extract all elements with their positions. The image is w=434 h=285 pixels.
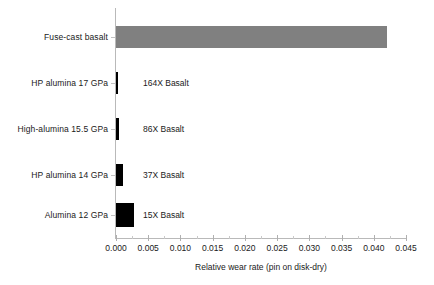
x-axis-minor-tick: [390, 236, 391, 239]
x-axis-tick: [277, 235, 278, 241]
x-axis-tick-label: 0.000: [105, 243, 126, 253]
chart-row: High-alumina 15.5 GPa 86X Basalt: [0, 106, 434, 152]
bar: [116, 164, 123, 186]
x-axis-tick-label: 0.035: [331, 243, 352, 253]
x-axis-minor-tick: [132, 236, 133, 239]
category-label: HP alumina 14 GPa: [31, 170, 108, 180]
x-axis-tick: [342, 235, 343, 241]
x-axis-minor-tick: [358, 236, 359, 239]
bar-annotation: 164X Basalt: [143, 78, 189, 88]
chart-row: Alumina 12 GPa 15X Basalt: [0, 192, 434, 238]
x-axis-tick-label: 0.040: [363, 243, 384, 253]
x-axis-minor-tick: [293, 236, 294, 239]
category-label: High-alumina 15.5 GPa: [18, 124, 108, 134]
x-axis-tick: [148, 235, 149, 241]
bar: [116, 26, 387, 48]
x-axis-tick-label: 0.020: [234, 243, 255, 253]
y-axis-tick: [111, 129, 115, 130]
bar: [116, 118, 119, 140]
bar: [116, 72, 118, 94]
category-label: Alumina 12 GPa: [45, 210, 108, 220]
category-label: Fuse-cast basalt: [44, 32, 108, 42]
x-axis-minor-tick: [229, 236, 230, 239]
x-axis-tick-label: 0.005: [138, 243, 159, 253]
x-axis-tick: [374, 235, 375, 241]
bar-chart: Fuse-cast basalt HP alumina 17 GPa 164X …: [0, 0, 434, 285]
x-axis-tick-label: 0.030: [299, 243, 320, 253]
x-axis-tick-label: 0.010: [170, 243, 191, 253]
x-axis-tick: [213, 235, 214, 241]
y-axis-tick: [111, 215, 115, 216]
bar-annotation: 86X Basalt: [143, 124, 184, 134]
x-axis-tick: [245, 235, 246, 241]
y-axis-tick: [111, 83, 115, 84]
x-axis-minor-tick: [325, 236, 326, 239]
x-axis-minor-tick: [164, 236, 165, 239]
y-axis-tick: [111, 175, 115, 176]
x-axis-minor-tick: [197, 236, 198, 239]
x-axis-tick-label: 0.015: [202, 243, 223, 253]
x-axis-title: Relative wear rate (pin on disk-dry): [0, 262, 434, 272]
bar-annotation: 15X Basalt: [143, 210, 184, 220]
x-axis-minor-tick: [261, 236, 262, 239]
x-axis-tick: [406, 235, 407, 241]
category-label: HP alumina 17 GPa: [31, 78, 108, 88]
bar-annotation: 37X Basalt: [143, 170, 184, 180]
x-axis-title-text: Relative wear rate (pin on disk-dry): [195, 262, 327, 272]
x-axis-tick: [309, 235, 310, 241]
bar: [116, 203, 134, 227]
x-axis-tick-label: 0.045: [395, 243, 416, 253]
x-axis-tick: [116, 235, 117, 241]
chart-row: Fuse-cast basalt: [0, 14, 434, 60]
chart-row: HP alumina 17 GPa 164X Basalt: [0, 60, 434, 106]
x-axis-tick-label: 0.025: [266, 243, 287, 253]
x-axis-tick: [180, 235, 181, 241]
y-axis-tick: [111, 37, 115, 38]
